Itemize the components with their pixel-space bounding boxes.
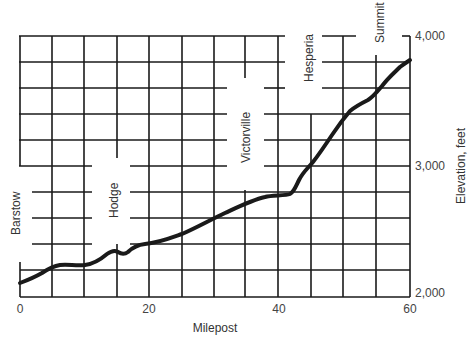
town-label-victorville: Victorville bbox=[239, 112, 253, 163]
y-tick-3000: 3,000 bbox=[415, 159, 445, 173]
town-label-hodge: Hodge bbox=[107, 182, 121, 218]
x-tick-60: 60 bbox=[403, 302, 417, 316]
town-label-summit: Summit bbox=[373, 2, 387, 43]
x-tick-20: 20 bbox=[142, 302, 156, 316]
town-label-hesperia: Hesperia bbox=[302, 34, 316, 82]
elevation-chart: Barstow Hodge Victorville Hesperia Summi… bbox=[0, 0, 476, 339]
grid-lines bbox=[19, 36, 410, 297]
town-label-barstow: Barstow bbox=[9, 191, 23, 235]
y-tick-4000: 4,000 bbox=[415, 29, 445, 43]
elevation-curve bbox=[20, 60, 410, 283]
x-axis-label: Milepost bbox=[193, 321, 238, 335]
y-tick-2000: 2,000 bbox=[415, 286, 445, 300]
x-tick-0: 0 bbox=[17, 302, 24, 316]
y-axis-label: Elevation, feet bbox=[454, 127, 468, 204]
x-tick-40: 40 bbox=[272, 302, 286, 316]
